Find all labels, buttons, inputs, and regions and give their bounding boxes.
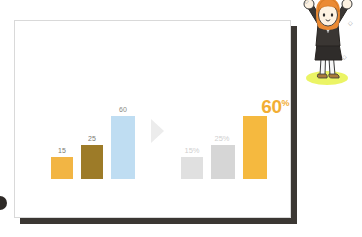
left-edge-dot xyxy=(0,196,7,210)
bar-label-before-3: 60 xyxy=(101,106,145,114)
bar-before-3 xyxy=(111,116,135,179)
bar-before-1 xyxy=(51,157,73,179)
bar-label-after-3: 60% xyxy=(225,93,289,117)
after-chart-plot: 15% 25% 60% xyxy=(177,87,277,179)
bar-label-before-2: 25 xyxy=(70,135,114,143)
slide-canvas: 15 25 60 15% 25% 60% xyxy=(0,0,362,237)
bar-before-2 xyxy=(81,145,103,179)
after-chart-panel: 15% 25% 60% xyxy=(177,87,277,179)
highlight-value: 60 xyxy=(261,96,281,117)
bar-label-after-2: 25% xyxy=(200,135,244,143)
sparkle-icon: ◇ xyxy=(348,20,353,26)
sparkle-icon: ◇ xyxy=(342,54,347,60)
before-chart-plot: 15 25 60 xyxy=(45,87,145,179)
sparkle-icon: ◇ xyxy=(304,0,309,4)
bar-after-2 xyxy=(211,145,235,179)
celebrating-businesswoman-icon: ◇ ◇ ◇ xyxy=(292,0,362,92)
bar-label-before-1: 15 xyxy=(40,147,84,155)
before-chart-panel: 15 25 60 xyxy=(45,87,145,179)
bar-after-1 xyxy=(181,157,203,179)
slide-frame: 15 25 60 15% 25% 60% xyxy=(14,20,291,218)
bar-label-after-1: 15% xyxy=(170,147,214,155)
bar-after-3 xyxy=(243,116,267,179)
highlight-percent-sign: % xyxy=(281,98,289,108)
arrow-right-triangle-icon xyxy=(151,119,164,143)
